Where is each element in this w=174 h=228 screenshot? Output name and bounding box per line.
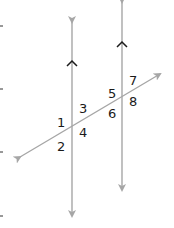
angle-label-1: 1: [57, 115, 65, 130]
angle-label-3: 3: [79, 101, 87, 116]
angle-label-6: 6: [108, 106, 116, 121]
transversal-line: [20, 74, 160, 157]
angle-label-2: 2: [57, 139, 65, 154]
parallel-marks: [67, 42, 127, 66]
angle-label-8: 8: [129, 94, 137, 109]
angle-labels: 1 2 3 4 5 6 7 8: [57, 73, 137, 154]
angle-label-5: 5: [108, 86, 116, 101]
parallel-lines-diagram: 1 2 3 4 5 6 7 8: [0, 0, 174, 228]
angle-label-7: 7: [129, 73, 137, 88]
edge-ticks: [0, 26, 3, 216]
angle-label-4: 4: [79, 125, 87, 140]
